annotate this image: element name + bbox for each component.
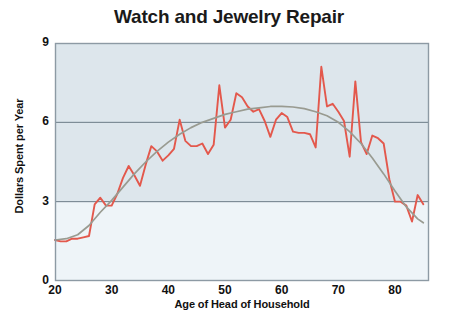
x-tick-label-80: 80 bbox=[375, 283, 415, 297]
x-tick-label-60: 60 bbox=[262, 283, 302, 297]
chart-figure: Watch and Jewelry Repair Dollars Spent p… bbox=[0, 0, 458, 332]
x-tick-label-20: 20 bbox=[35, 283, 75, 297]
x-tick-label-30: 30 bbox=[92, 283, 132, 297]
y-tick-label-3: 3 bbox=[9, 194, 49, 208]
x-tick-label-50: 50 bbox=[205, 283, 245, 297]
y-tick-label-6: 6 bbox=[9, 114, 49, 128]
x-tick-label-70: 70 bbox=[318, 283, 358, 297]
x-tick-label-40: 40 bbox=[148, 283, 188, 297]
plot-lower-band bbox=[55, 202, 429, 281]
y-tick-label-9: 9 bbox=[9, 35, 49, 49]
